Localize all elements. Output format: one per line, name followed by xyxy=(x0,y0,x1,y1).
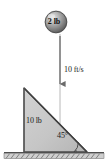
ground-surface xyxy=(4,153,104,159)
physics-diagram-figure: 2 lb 10 ft/s 10 lb 45° xyxy=(0,0,108,168)
wedge-weight-label: 10 lb xyxy=(26,117,42,125)
incline-angle-label: 45° xyxy=(57,132,68,140)
velocity-label: 10 ft/s xyxy=(64,66,84,74)
ball-weight-label: 2 lb xyxy=(0,18,108,26)
